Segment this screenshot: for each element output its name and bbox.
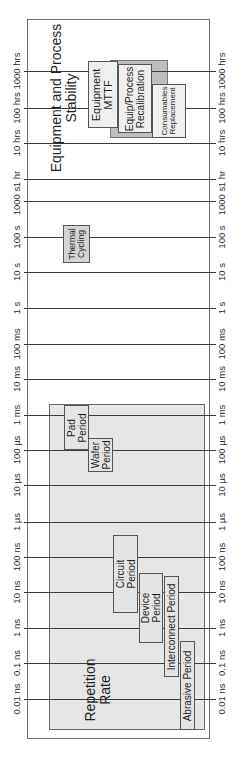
left-axis-tick-label: 10 ms [11,366,22,392]
gridline [24,628,216,629]
device-period-box: Device Period [139,573,163,643]
gridline [24,237,216,238]
left-axis-tick-label: 10 µs [11,473,22,496]
left-axis-tick-label: 1 hr [11,171,22,187]
right-axis-tick-label: 1 s [216,302,227,315]
left-axis-tick-label: 1 ns [11,619,22,637]
label-line: Equipment [91,68,103,121]
right-axis-tick-label: 10 µs [216,473,227,496]
interconnect-period-box: Interconnect Period [164,576,179,677]
left-axis-tick-label: 10 hrs [11,130,22,156]
circuit-period-label: Circuit Period [115,560,136,589]
label-line: Period [126,560,137,589]
label-line: Replacement [169,87,177,136]
left-axis-tick-label: 1000 hrs [11,53,22,90]
wafer-period-box: Wafer Period [88,438,113,472]
gridline [24,450,216,451]
right-axis-tick-label: 100 ns [216,543,227,572]
abrasive-period-box: Abrasive Period [180,641,195,730]
label-line: Equip/Process [125,66,136,130]
right-axis-tick-label: 1 ms [216,405,227,426]
left-axis-tick-label: 100 ms [11,328,22,359]
repetition-title: Repetition Rate [83,658,112,721]
right-axis-tick-label: 1000 hrs [216,53,227,90]
device-period-label: Device Period [141,593,162,624]
label-line: Recalibration [135,66,146,130]
label-line: Period [151,593,162,624]
interconnect-period-label: Interconnect Period [166,583,177,670]
circuit-period-box: Circuit Period [113,535,138,613]
label-line: Pad [66,413,77,442]
stability-title-line2: Stability [64,24,79,173]
right-axis-tick-label: 10 ns [216,580,227,603]
label-line: Interconnect Period [166,583,177,670]
gridline [24,415,216,416]
label-line: Period [77,413,88,442]
right-axis-tick-label: 10 hrs [216,130,227,156]
right-axis-tick-label: 0.1 ns [216,650,227,676]
abrasive-period-label: Abrasive Period [182,650,193,721]
left-axis-tick-label: 10 s [11,263,22,281]
right-axis-tick-label: 100 s [216,225,227,248]
wafer-period-label: Wafer Period [90,441,111,470]
gridline [24,179,216,180]
thermal-cycling-box: Thermal Cycling [63,225,90,263]
right-axis-tick-label: 1 µs [216,513,227,531]
left-axis-tick-label: 1 µs [11,513,22,531]
right-axis-tick-label: 1 hr [216,171,227,187]
left-axis-tick-label: 100 hrs [11,92,22,124]
gridline [24,308,216,309]
thermal-cycling-label: Thermal Cycling [68,228,86,259]
left-axis-tick-label: 1 s [11,302,22,315]
repetition-title-line2: Rate [98,658,113,721]
right-axis-tick-label: 1000 s [216,187,227,216]
label-line: Device [141,593,152,624]
left-axis-tick-label: 0.01 ns [11,683,22,714]
right-axis-tick-label: 10 ms [216,366,227,392]
label-line: Wafer [90,441,101,470]
label-line: Cycling [77,228,86,259]
label-line: Period [101,441,112,470]
gridline [24,272,216,273]
repetition-title-line1: Repetition [83,658,98,721]
label-line: Circuit [115,560,126,589]
pad-period-box: Pad Period [64,405,89,450]
stability-title-line1: Equipment and Process [49,24,64,173]
gridline [24,379,216,380]
left-axis-tick-label: 100 µs [11,436,22,465]
recalibration-label: Equip/Process Recalibration [125,66,146,130]
left-axis-tick-label: 100 ns [11,543,22,572]
gridline [24,201,216,202]
equipment-mttf-label: Equipment MTTF [91,68,114,121]
consumables-label: Consumables Replacement [161,87,178,136]
right-axis-tick-label: 100 ms [216,328,227,359]
right-axis-tick-label: 0.01 ns [216,683,227,714]
gridline [24,485,216,486]
right-axis-tick-label: 10 s [216,263,227,281]
pad-period-label: Pad Period [66,413,87,442]
left-axis-tick-label: 100 s [11,225,22,248]
left-axis-tick-label: 1 ms [11,405,22,426]
recalibration-box: Equip/Process Recalibration [118,64,152,133]
left-axis-tick-label: 1000 s [11,187,22,216]
right-axis-tick-label: 100 hrs [216,92,227,124]
label-line: Abrasive Period [182,650,193,721]
stability-title: Equipment and Process Stability [49,24,78,173]
left-axis-tick-label: 10 ns [11,580,22,603]
equipment-mttf-box: Equipment MTTF [88,61,118,128]
label-line: MTTF [103,68,115,121]
left-axis-tick-label: 0.1 ns [11,650,22,676]
right-axis-tick-label: 1 ns [216,619,227,637]
gridline [24,344,216,345]
gridline [24,522,216,523]
right-axis-tick-label: 100 µs [216,436,227,465]
consumables-box: Consumables Replacement [152,84,186,138]
